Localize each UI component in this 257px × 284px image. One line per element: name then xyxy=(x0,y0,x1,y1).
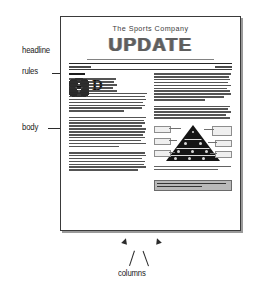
pyramid-callout-label xyxy=(154,138,171,144)
pyramid-divider xyxy=(177,148,210,149)
annotation-leader-columns-right xyxy=(143,251,150,267)
rule-top xyxy=(69,63,232,64)
masthead: The Sports Company UPDATE xyxy=(69,24,232,70)
dateline-date xyxy=(69,66,91,68)
dateline xyxy=(69,66,232,68)
pyramid-divider xyxy=(185,139,202,140)
column-left: D xyxy=(69,73,147,191)
callout-box xyxy=(154,180,232,191)
pyramid-callout-label xyxy=(215,151,232,157)
body-paragraph xyxy=(154,106,232,120)
masthead-tagline xyxy=(69,59,232,60)
nameplate-text: The Sports Company xyxy=(69,24,232,33)
body-paragraph xyxy=(69,152,147,172)
pyramid-leader-line xyxy=(208,142,217,143)
dateline-volume xyxy=(215,66,232,68)
section-kicker-health xyxy=(69,73,85,75)
annotation-label-headline: headline xyxy=(22,45,50,55)
annotation-leader-columns-left xyxy=(129,251,135,267)
pyramid-callout-label xyxy=(154,150,171,156)
body-paragraph xyxy=(154,73,232,102)
pyramid-leader-line xyxy=(169,140,177,141)
annotation-label-columns: columns xyxy=(118,268,146,278)
pyramid-callout-label xyxy=(154,126,171,132)
body-paragraph xyxy=(69,117,147,149)
column-right xyxy=(154,73,232,191)
annotation-arrow-columns-left xyxy=(121,237,129,245)
pyramid-callout-label xyxy=(212,126,232,136)
pyramid-divider xyxy=(170,155,216,156)
newsletter-page: The Sports Company UPDATE D xyxy=(60,16,241,231)
pyramid-leader-line xyxy=(169,152,175,153)
food-pyramid-figure xyxy=(154,123,232,170)
pyramid-callout-label xyxy=(215,140,232,146)
rule-bottom xyxy=(69,69,232,70)
body-paragraph: D xyxy=(69,78,147,113)
pyramid-leader-line xyxy=(210,153,217,154)
annotation-label-body: body xyxy=(22,122,38,132)
annotation-arrow-columns-right xyxy=(154,237,162,245)
figure-caption xyxy=(154,166,232,170)
annotation-label-rules: rules xyxy=(22,66,38,76)
headline-word: UPDATE xyxy=(69,34,232,55)
pyramid-leader-line xyxy=(204,129,214,130)
pyramid-leader-line xyxy=(169,128,181,129)
column-container: D xyxy=(69,73,232,191)
